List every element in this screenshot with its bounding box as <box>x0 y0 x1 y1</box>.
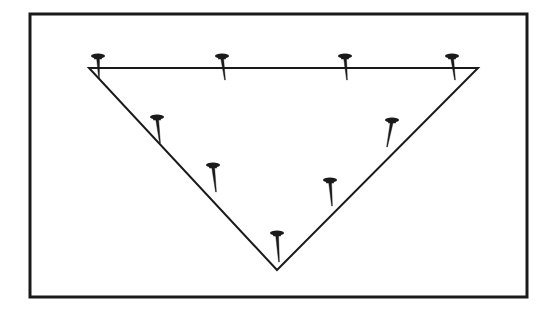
nail-head-underside <box>341 57 349 59</box>
nail-head-underside <box>448 57 456 59</box>
canvas-background <box>0 0 552 319</box>
nail-head-underside <box>273 234 281 236</box>
nail-head-underside <box>326 181 334 183</box>
nail-head-underside <box>209 166 217 168</box>
figure-canvas <box>0 0 552 319</box>
nail-head-underside <box>94 57 102 59</box>
nail-head-underside <box>388 121 396 123</box>
nail-head-underside <box>218 57 226 59</box>
diagram-svg <box>0 0 552 319</box>
nail-head-underside <box>153 118 161 120</box>
